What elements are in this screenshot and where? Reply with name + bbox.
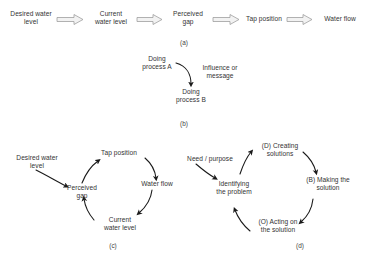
arrow-tap-to-flow (145, 158, 156, 178)
arrow-gap-to-tap (82, 161, 98, 183)
node-a-current-water-level: Current water level (85, 10, 137, 25)
block-arrow-3 (213, 15, 239, 25)
node-d-acting-on-the-solution: (O) Acting on the solution (250, 218, 306, 233)
node-d-identifying-the-problem: Identifying the problem (210, 180, 258, 195)
arrow-flow-to-current (139, 190, 152, 213)
block-arrow-2 (137, 15, 162, 25)
caption-panel-c: (c) (103, 242, 123, 249)
node-c-tap-position: Tap position (95, 149, 143, 157)
node-a-water-flow: Water flow (316, 15, 364, 23)
systems-diagram-figure: Desired water level Current water level … (0, 0, 368, 268)
block-arrow-1 (57, 15, 83, 25)
arrow-act-to-identify (235, 210, 250, 231)
node-c-perceived-gap: Perceived gap (60, 184, 104, 199)
node-c-water-flow: Water flow (134, 180, 180, 188)
node-b-doing-process-a: Doing process A (134, 55, 180, 70)
node-a-desired-water-level: Desired water level (4, 10, 58, 25)
node-d-making-the-solution: (B) Making the solution (299, 176, 357, 191)
edge-label-influence-or-message: Influence or message (196, 64, 244, 79)
arrow-need-to-identify (196, 164, 215, 178)
node-d-creating-solutions: (D) Creating solutions (253, 142, 307, 157)
block-arrow-4 (287, 15, 312, 25)
node-d-need-purpose: Need / purpose (182, 155, 238, 163)
node-a-perceived-gap: Perceived gap (164, 10, 212, 25)
node-b-doing-process-b: Doing process B (168, 88, 214, 103)
arrow-identify-to-create (240, 152, 251, 174)
node-c-current-water-level: Current water level (95, 216, 145, 231)
caption-panel-b: (b) (174, 120, 194, 127)
node-a-tap-position: Tap position (240, 15, 288, 23)
caption-panel-d: (d) (290, 242, 310, 249)
caption-panel-a: (a) (174, 39, 194, 46)
node-c-desired-water-level: Desired water level (10, 154, 64, 169)
arrow-current-to-gap (84, 199, 94, 220)
